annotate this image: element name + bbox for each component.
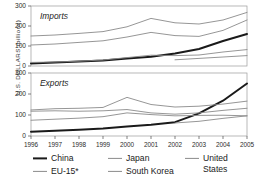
x-tick-label: 1997 [48, 141, 63, 148]
legend-item-japan[interactable]: Japan [108, 153, 150, 163]
legend-label: China [51, 153, 74, 163]
legend: ChinaEU-15*JapanSouth KoreaUnitedStates [33, 153, 228, 176]
y-axis-label: U.S. DOLLARS (billions) [14, 0, 21, 120]
legend-label: United [203, 153, 228, 163]
trade-line-chart-figure: U.S. DOLLARS (billions) 0100200300Import… [0, 0, 260, 196]
y-tick-label: 0 [22, 132, 26, 139]
x-axis: 1996199719981999200020012002200320042005 [24, 136, 255, 148]
legend-label: Japan [126, 153, 150, 163]
x-tick-label: 1998 [72, 141, 87, 148]
legend-label: South Korea [126, 166, 174, 176]
x-tick-label: 2004 [216, 141, 231, 148]
x-tick-label: 1999 [96, 141, 111, 148]
panel-title-exports: Exports [40, 78, 69, 88]
panel-imports: 0100200300Imports [15, 2, 247, 69]
x-tick-label: 2002 [168, 141, 183, 148]
panel-exports: 0100200300Exports [15, 69, 247, 139]
legend-item-south-korea[interactable]: South Korea [108, 166, 174, 176]
y-tick-label: 0 [22, 62, 26, 69]
x-tick-label: 1996 [24, 141, 39, 148]
legend-label: States [203, 164, 227, 174]
panel-title-imports: Imports [40, 11, 69, 21]
x-tick-label: 2003 [192, 141, 207, 148]
legend-label: EU-15* [51, 166, 79, 176]
chart-canvas: 0100200300Imports0100200300Exports199619… [0, 0, 260, 196]
x-tick-label: 2005 [240, 141, 255, 148]
legend-item-china[interactable]: China [33, 153, 74, 163]
x-tick-label: 2000 [120, 141, 135, 148]
legend-item-eu-15[interactable]: EU-15* [33, 166, 79, 176]
x-tick-label: 2001 [144, 141, 159, 148]
